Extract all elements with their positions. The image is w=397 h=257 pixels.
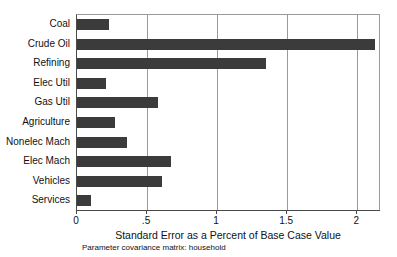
category-label-gas-util: Gas Util xyxy=(34,96,70,107)
bar-row xyxy=(77,114,379,131)
category-axis-labels: CoalCrude OilRefiningElec UtilGas UtilAg… xyxy=(0,14,73,210)
x-axis-line xyxy=(76,210,380,211)
x-tick-label-1: 1 xyxy=(201,215,231,226)
bar-row xyxy=(77,16,379,33)
bar-services xyxy=(77,195,91,206)
bar-row xyxy=(77,192,379,209)
category-label-vehicles: Vehicles xyxy=(33,175,70,186)
category-label-coal: Coal xyxy=(49,18,70,29)
bar-agriculture xyxy=(77,117,115,128)
bar-row xyxy=(77,173,379,190)
bar-elec-util xyxy=(77,78,106,89)
x-tick-1 xyxy=(216,210,217,214)
bar-vehicles xyxy=(77,176,162,187)
x-tick-label-.5: .5 xyxy=(131,215,161,226)
x-tick-1.5 xyxy=(286,210,287,214)
x-tick-label-0: 0 xyxy=(61,215,91,226)
bar-elec-mach xyxy=(77,156,171,167)
bar-refining xyxy=(77,58,266,69)
category-label-elec-mach: Elec Mach xyxy=(23,155,70,166)
bar-row xyxy=(77,153,379,170)
bar-coal xyxy=(77,19,109,30)
x-tick-2 xyxy=(356,210,357,214)
plot-area xyxy=(76,14,380,210)
category-label-services: Services xyxy=(32,194,70,205)
category-label-nonelec-mach: Nonelec Mach xyxy=(6,136,70,147)
category-label-agriculture: Agriculture xyxy=(22,116,70,127)
bars-layer xyxy=(77,15,379,210)
category-label-elec-util: Elec Util xyxy=(33,77,70,88)
bar-row xyxy=(77,36,379,53)
bar-chart: CoalCrude OilRefiningElec UtilGas UtilAg… xyxy=(0,0,397,257)
x-tick-0 xyxy=(76,210,77,214)
bar-gas-util xyxy=(77,97,158,108)
category-label-refining: Refining xyxy=(33,57,70,68)
x-tick-.5 xyxy=(146,210,147,214)
x-tick-label-2: 2 xyxy=(341,215,371,226)
category-label-crude-oil: Crude Oil xyxy=(28,38,70,49)
bar-row xyxy=(77,134,379,151)
x-axis-title: Standard Error as a Percent of Base Case… xyxy=(76,229,380,241)
bar-row xyxy=(77,55,379,72)
chart-subtitle: Parameter covariance matrix: household xyxy=(82,243,226,253)
bar-nonelec-mach xyxy=(77,137,127,148)
bar-row xyxy=(77,94,379,111)
bar-row xyxy=(77,75,379,92)
bar-crude-oil xyxy=(77,39,375,50)
x-tick-label-1.5: 1.5 xyxy=(271,215,301,226)
